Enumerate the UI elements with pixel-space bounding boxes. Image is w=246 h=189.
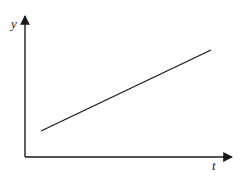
- data-line: [41, 50, 211, 131]
- y-axis-label: y: [9, 16, 17, 31]
- x-axis-label: t: [212, 158, 216, 173]
- chart-canvas: y t: [0, 0, 246, 189]
